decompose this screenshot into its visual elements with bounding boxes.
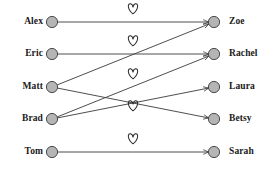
heart-icon <box>128 134 137 144</box>
node-sarah[interactable] <box>208 146 219 157</box>
node-zoe[interactable] <box>208 16 219 27</box>
edge-layer <box>57 22 208 152</box>
node-label-rachel: Rachel <box>229 49 258 59</box>
node-label-brad: Brad <box>22 114 43 124</box>
node-betsy[interactable] <box>208 113 219 124</box>
node-label-laura: Laura <box>229 82 255 92</box>
edge-matt-to-zoe <box>57 24 208 85</box>
edge-brad-to-rachel <box>57 56 208 117</box>
node-matt[interactable] <box>46 81 57 92</box>
node-alex[interactable] <box>46 16 57 27</box>
node-label-alex: Alex <box>24 17 43 27</box>
node-label-sarah: Sarah <box>229 147 254 157</box>
node-label-tom: Tom <box>25 147 43 157</box>
node-label-betsy: Betsy <box>229 114 252 124</box>
node-eric[interactable] <box>46 48 57 59</box>
node-brad[interactable] <box>46 113 57 124</box>
heart-icon <box>128 36 137 46</box>
node-label-zoe: Zoe <box>229 17 245 27</box>
bipartite-matching-diagram: AlexEricMattBradTomZoeRachelLauraBetsySa… <box>0 0 277 172</box>
heart-icon <box>128 69 137 79</box>
node-tom[interactable] <box>46 146 57 157</box>
heart-icon <box>128 4 137 14</box>
node-rachel[interactable] <box>208 48 219 59</box>
heart-layer <box>128 4 137 144</box>
node-laura[interactable] <box>208 81 219 92</box>
node-label-matt: Matt <box>23 82 43 92</box>
node-label-eric: Eric <box>25 49 43 59</box>
